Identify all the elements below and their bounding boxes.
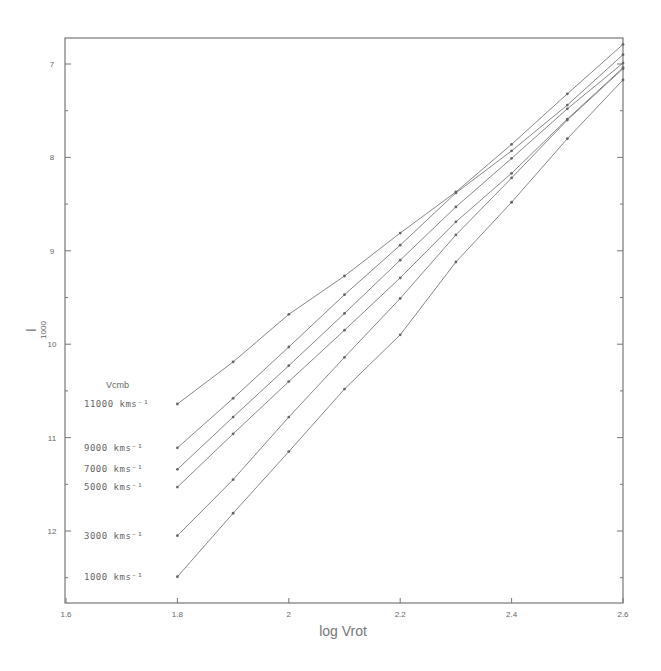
data-point: [455, 220, 458, 223]
data-point: [399, 259, 402, 262]
data-point: [176, 486, 179, 489]
x-tick-label: 2.6: [617, 610, 629, 619]
data-point: [455, 206, 458, 209]
series-label: 5000 kms⁻¹: [84, 482, 143, 492]
y-tick-label: 8: [50, 153, 55, 162]
series-line: [177, 63, 623, 469]
series-line: [177, 44, 623, 404]
data-point: [566, 104, 569, 107]
data-point: [287, 380, 290, 383]
data-point: [510, 149, 513, 152]
chart: 1.61.822.22.42.6 789101112 11000 kms⁻¹90…: [0, 0, 661, 671]
data-point: [232, 397, 235, 400]
series-label: 11000 kms⁻¹: [84, 399, 149, 409]
data-point: [232, 512, 235, 515]
data-point: [176, 575, 179, 578]
data-point: [343, 388, 346, 391]
x-axis: 1.61.822.22.42.6: [60, 598, 629, 619]
data-point: [343, 312, 346, 315]
legend-title: Vcmb: [106, 380, 129, 390]
axes-frame: [65, 38, 623, 603]
series-label: 1000 kms⁻¹: [84, 572, 143, 582]
data-point: [455, 234, 458, 237]
data-point: [510, 143, 513, 146]
data-point: [455, 261, 458, 264]
series-line: [177, 69, 623, 536]
series-lines: [176, 43, 624, 578]
y-tick-label: 11: [48, 434, 57, 443]
data-point: [343, 293, 346, 296]
data-point: [287, 450, 290, 453]
y-tick-label: 12: [48, 527, 57, 536]
data-point: [399, 244, 402, 247]
data-point: [510, 177, 513, 180]
x-tick-label: 2.4: [506, 610, 518, 619]
data-point: [399, 276, 402, 279]
data-point: [287, 364, 290, 367]
data-point: [343, 275, 346, 278]
data-point: [510, 201, 513, 204]
data-point: [176, 446, 179, 449]
data-point: [566, 107, 569, 110]
data-point: [622, 67, 625, 70]
data-point: [176, 534, 179, 537]
data-point: [343, 329, 346, 332]
series-line: [177, 55, 623, 448]
y-axis: 789101112: [48, 60, 623, 578]
data-point: [510, 157, 513, 160]
x-tick-label: 1.8: [172, 610, 184, 619]
data-point: [176, 403, 179, 406]
data-point: [232, 432, 235, 435]
y-tick-label: 9: [50, 247, 55, 256]
series-label: 3000 kms⁻¹: [84, 531, 143, 541]
x-tick-label: 2.2: [395, 610, 407, 619]
data-point: [287, 313, 290, 316]
x-tick-label: 1.6: [60, 610, 72, 619]
data-point: [455, 191, 458, 194]
series-label: 7000 kms⁻¹: [84, 464, 143, 474]
svg-text:I: I: [23, 328, 39, 332]
data-point: [232, 478, 235, 481]
y-tick-label: 10: [48, 340, 57, 349]
series-line: [177, 80, 623, 577]
data-point: [622, 62, 625, 65]
series-labels: 11000 kms⁻¹9000 kms⁻¹7000 kms⁻¹5000 kms⁻…: [84, 399, 149, 582]
data-point: [232, 361, 235, 364]
data-point: [566, 119, 569, 122]
x-tick-label: 2: [287, 610, 292, 619]
data-point: [176, 468, 179, 471]
x-axis-title: log Vrot: [319, 623, 367, 639]
data-point: [343, 356, 346, 359]
y-axis-title-subscript: 1000: [39, 321, 48, 339]
data-point: [622, 53, 625, 56]
data-point: [232, 416, 235, 419]
data-point: [399, 232, 402, 235]
data-point: [399, 333, 402, 336]
data-point: [287, 416, 290, 419]
data-point: [287, 346, 290, 349]
data-point: [566, 137, 569, 140]
y-axis-title: I 1000: [23, 321, 48, 339]
series-label: 9000 kms⁻¹: [84, 443, 143, 453]
data-point: [510, 172, 513, 175]
data-point: [566, 92, 569, 95]
data-point: [622, 43, 625, 46]
plot-area: 1.61.822.22.42.6 789101112 11000 kms⁻¹90…: [0, 0, 661, 671]
data-point: [622, 78, 625, 81]
y-tick-label: 7: [50, 60, 55, 69]
data-point: [399, 297, 402, 300]
